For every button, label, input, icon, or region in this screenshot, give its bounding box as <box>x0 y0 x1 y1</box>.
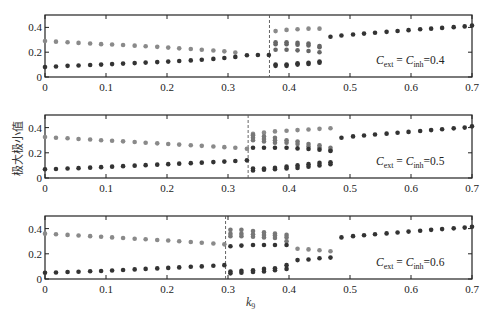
series-periodic-mid <box>273 40 322 55</box>
y-tick-label: 0 <box>37 172 43 184</box>
data-point <box>222 159 227 164</box>
data-point <box>43 65 48 70</box>
data-point <box>339 135 344 140</box>
data-point <box>470 23 475 28</box>
data-point <box>306 247 311 252</box>
data-point <box>451 126 456 131</box>
data-point <box>284 28 289 33</box>
data-point <box>43 39 48 44</box>
x-tick-label: 0 <box>42 182 48 194</box>
data-point <box>373 30 378 35</box>
data-point <box>166 162 171 167</box>
data-point <box>65 233 70 238</box>
data-point <box>54 64 59 69</box>
y-tick-label: 0.2 <box>28 248 42 260</box>
data-point <box>273 268 278 273</box>
data-point <box>132 43 137 48</box>
data-point <box>110 138 115 143</box>
data-point <box>110 268 115 273</box>
data-point <box>166 266 171 271</box>
x-tick-label: 0.3 <box>221 81 235 93</box>
data-point <box>188 161 193 166</box>
data-point <box>284 243 289 248</box>
data-point <box>177 161 182 166</box>
series-periodic-high <box>273 26 322 33</box>
data-point <box>295 166 300 171</box>
x-tick-label: 0.5 <box>343 81 357 93</box>
data-point <box>199 160 204 165</box>
data-point <box>284 47 289 52</box>
data-point <box>65 136 70 141</box>
x-tick-label: 0.4 <box>282 182 296 194</box>
annotation-part: =0.4 <box>424 54 445 66</box>
data-point <box>245 158 250 163</box>
parameter-annotation: Cext = Cinh=0.4 <box>376 54 445 69</box>
x-tick-label: 0.6 <box>404 81 418 93</box>
data-point <box>351 32 356 37</box>
series-periodic-low <box>251 160 333 173</box>
data-point <box>99 165 104 170</box>
data-point <box>284 145 289 150</box>
data-point <box>76 137 81 142</box>
data-point <box>177 142 182 147</box>
data-point <box>54 135 59 140</box>
data-point <box>256 53 261 58</box>
data-point <box>317 163 322 168</box>
data-point <box>143 44 148 49</box>
data-point <box>239 234 244 239</box>
data-point <box>440 26 445 31</box>
data-point <box>362 233 367 238</box>
data-point <box>317 50 322 55</box>
data-point <box>295 246 300 251</box>
x-tick-label: 0.7 <box>465 81 479 93</box>
data-point <box>251 270 256 275</box>
subplot-1: 00.10.20.30.40.50.60.700.20.4Cext = Cinh… <box>28 15 479 93</box>
data-point <box>166 45 171 50</box>
data-point <box>88 269 93 274</box>
data-point <box>211 48 216 53</box>
data-point <box>228 271 233 276</box>
data-point <box>76 233 81 238</box>
data-point <box>245 146 250 151</box>
data-point <box>273 236 278 241</box>
data-point <box>362 133 367 138</box>
data-point <box>262 168 267 173</box>
x-tick-label: 0.5 <box>343 182 357 194</box>
data-point <box>262 243 267 248</box>
annotation-part: = <box>393 155 405 167</box>
data-point <box>233 50 238 55</box>
data-point <box>121 43 126 48</box>
data-point <box>222 263 227 268</box>
data-point <box>328 126 333 131</box>
data-point <box>239 270 244 275</box>
data-point <box>88 234 93 239</box>
data-point <box>306 164 311 169</box>
data-point <box>373 232 378 237</box>
data-point <box>239 243 244 248</box>
data-point <box>143 140 148 145</box>
data-point <box>273 243 278 248</box>
data-point <box>54 270 59 275</box>
data-point <box>76 166 81 171</box>
data-point <box>76 63 81 68</box>
data-point <box>295 128 300 133</box>
x-tick-label: 0.7 <box>465 283 479 295</box>
data-point <box>99 42 104 47</box>
x-tick-label: 0.3 <box>221 182 235 194</box>
series-lower <box>43 53 271 70</box>
data-point <box>132 236 137 241</box>
series-upper <box>43 39 238 55</box>
data-point <box>395 230 400 235</box>
series-branch-mid-upper <box>295 246 333 253</box>
data-point <box>121 164 126 169</box>
data-point <box>295 48 300 53</box>
series-periodic-low <box>273 59 322 68</box>
data-point <box>384 231 389 236</box>
x-tick-label: 0.2 <box>160 283 174 295</box>
data-point <box>262 269 267 274</box>
annotation-part: = <box>393 256 405 268</box>
data-point <box>251 234 256 239</box>
data-point <box>317 248 322 253</box>
data-point <box>306 26 311 31</box>
annotation-part: =0.6 <box>424 256 445 268</box>
